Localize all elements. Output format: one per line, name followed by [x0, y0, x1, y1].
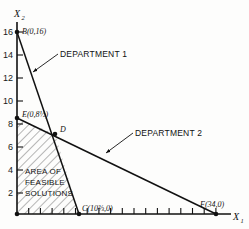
y-tick-label-16: 16	[3, 27, 13, 37]
linear-programming-chart: X 2 X 1 16 14 12 10 8 6 4 2 B(0,16) E(0,…	[0, 0, 249, 229]
department-1-label: DEPARTMENT 1	[60, 49, 127, 59]
feasible-region-label-line3: SOLUTIONS	[25, 189, 73, 198]
vertex-dot-d	[53, 132, 58, 137]
y-tick-label-6: 6	[8, 142, 13, 152]
y-tick-label-2: 2	[8, 188, 13, 198]
point-label-e: E(0,8½)	[21, 110, 49, 119]
vertex-dot-f	[214, 212, 219, 217]
y-tick-label-12: 12	[3, 73, 13, 83]
department-2-label: DEPARTMENT 2	[135, 128, 202, 138]
y-tick-label-8: 8	[8, 119, 13, 129]
y-axis-title: X	[13, 8, 21, 19]
department-2-leader-line	[106, 133, 133, 153]
point-label-f: F(34,0)	[199, 200, 225, 209]
chart-canvas: X 2 X 1 16 14 12 10 8 6 4 2 B(0,16) E(0,…	[0, 0, 249, 229]
vertex-dot-origin	[15, 212, 20, 217]
point-label-d: D	[59, 125, 66, 134]
feasible-region-label-line1: AREA OF	[25, 167, 61, 176]
x-axis-title-subscript: 1	[241, 217, 244, 224]
y-tick-label-4: 4	[8, 165, 13, 175]
y-axis-title-subscript: 2	[22, 14, 26, 21]
vertex-dot-b	[15, 30, 20, 35]
x-axis-title: X	[232, 211, 240, 222]
department-1-leader-line	[33, 54, 58, 72]
point-label-b: B(0,16)	[22, 27, 47, 36]
point-label-c: C(10⅔,0)	[82, 204, 113, 213]
y-tick-label-10: 10	[3, 96, 13, 106]
y-tick-label-14: 14	[3, 50, 13, 60]
feasible-region-label-line2: FEASIBLE	[25, 178, 65, 187]
vertex-dot-c	[77, 212, 82, 217]
vertex-dot-e	[15, 116, 20, 121]
